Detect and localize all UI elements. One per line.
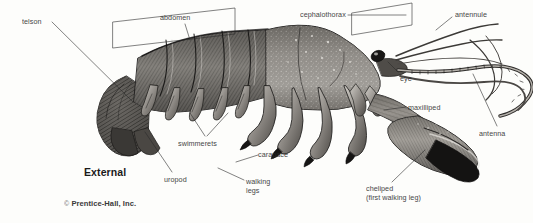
copyright-text: Prentice-Hall, Inc. [71, 199, 136, 208]
label-swimmerets: swimmerets [178, 140, 217, 149]
label-carapace-line-1: carapace [258, 151, 288, 160]
label-uropod-line-1: uropod [164, 176, 187, 185]
label-telson: telson [22, 18, 41, 27]
antennule-leader [436, 17, 452, 30]
label-abdomen-line-1: abdomen [160, 14, 190, 23]
figure-title: External [84, 166, 126, 178]
label-maxilliped: maxilliped [408, 104, 440, 113]
label-swimmerets-line-1: swimmerets [178, 140, 217, 149]
copyright-icon: © [64, 200, 69, 207]
figure-canvas: telsonabdomencephalothoraxantennuleeyema… [0, 0, 533, 223]
label-uropod: uropod [164, 176, 187, 185]
label-maxilliped-line-1: maxilliped [408, 104, 440, 113]
label-abdomen: abdomen [160, 14, 190, 23]
label-eye: eye [400, 75, 412, 84]
label-cephalothorax: cephalothorax [300, 11, 346, 20]
label-telson-line-1: telson [22, 18, 41, 27]
cephalothorax-bracket [352, 3, 412, 35]
carapace-leader [236, 155, 258, 162]
label-antenna-line-1: antenna [479, 130, 505, 139]
label-antennule: antennule [455, 11, 487, 20]
label-cephalothorax-line-1: cephalothorax [300, 11, 346, 20]
label-walking-legs-line-2: legs [246, 187, 270, 196]
label-antennule-line-1: antennule [455, 11, 487, 20]
label-antenna: antenna [479, 130, 505, 139]
label-walking-legs: walkinglegs [246, 178, 270, 195]
walking-legs-leader [218, 168, 244, 180]
abdomen-bracket-stem [185, 24, 190, 40]
label-cheliped: cheliped(first walking leg) [366, 185, 421, 202]
telson-leader [52, 22, 133, 102]
copyright-notice: © Prentice-Hall, Inc. [64, 199, 136, 208]
label-eye-line-1: eye [400, 75, 412, 84]
label-cheliped-line-2: (first walking leg) [366, 194, 421, 203]
label-carapace: carapace [258, 151, 288, 160]
